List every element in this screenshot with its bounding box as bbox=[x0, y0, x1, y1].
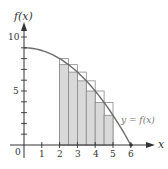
x-tick-label-5: 5 bbox=[110, 149, 116, 159]
x-tick-label-4: 4 bbox=[93, 149, 99, 159]
y-axis-label: f(x) bbox=[13, 10, 33, 23]
lower-rectangle bbox=[104, 115, 113, 145]
lower-rectangle bbox=[77, 81, 86, 145]
x-intercept-point bbox=[129, 143, 133, 147]
origin-label: 0 bbox=[15, 147, 21, 157]
x-tick-label-2: 2 bbox=[57, 149, 63, 159]
lower-rectangle bbox=[86, 91, 95, 145]
lower-rectangle bbox=[60, 65, 69, 145]
y-axis-arrow-icon bbox=[21, 22, 27, 31]
x-tick-label-6: 6 bbox=[128, 149, 134, 159]
x-tick-label-1: 1 bbox=[39, 149, 45, 159]
lower-rectangle bbox=[95, 102, 104, 145]
y-tick-label-5: 5 bbox=[13, 86, 19, 96]
riemann-rectangles bbox=[60, 59, 113, 145]
lower-rectangle bbox=[69, 72, 78, 145]
x-tick-label-3: 3 bbox=[75, 149, 81, 159]
chart: f(x) x 0 10 5 1 2 3 4 5 6 y = f(x) bbox=[0, 0, 168, 169]
function-label: y = f(x) bbox=[120, 115, 155, 125]
x-axis-arrow-icon bbox=[146, 142, 155, 148]
y-tick-label-10: 10 bbox=[8, 32, 20, 42]
x-axis-label: x bbox=[158, 138, 165, 151]
